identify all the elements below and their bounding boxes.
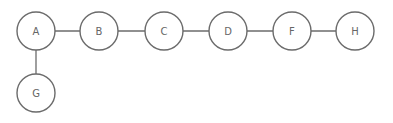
node-c: C <box>145 12 183 50</box>
nodes: ABCDFHG <box>17 12 374 112</box>
node-f: F <box>273 12 311 50</box>
node-a: A <box>17 12 55 50</box>
node-label: A <box>33 26 40 37</box>
node-label: B <box>96 26 103 37</box>
node-d: D <box>209 12 247 50</box>
node-label: H <box>351 26 359 37</box>
graph-diagram: ABCDFHG <box>0 0 393 123</box>
node-g: G <box>17 74 55 112</box>
node-label: G <box>32 88 40 99</box>
node-h: H <box>336 12 374 50</box>
node-label: F <box>289 26 295 37</box>
node-label: D <box>224 26 232 37</box>
node-b: B <box>80 12 118 50</box>
node-label: C <box>161 26 168 37</box>
